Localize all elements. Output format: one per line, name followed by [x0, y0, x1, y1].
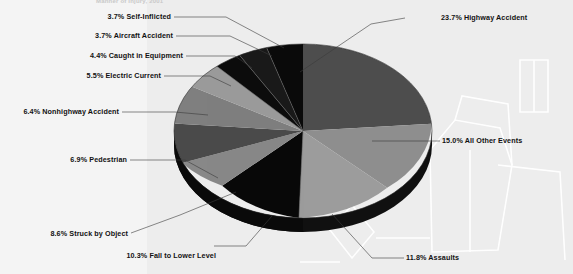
chart-title-faint: Manner of Injury, 2001	[96, 0, 163, 4]
callout-self-inflicted: 3.7% Self-Inflicted	[44, 12, 171, 21]
callout-assaults: 11.8% Assaults	[406, 253, 459, 262]
callout-caught-in-equipment: 4.4% Caught in Equipment	[43, 51, 183, 60]
callout-struck-by-object: 8.6% Struck by Object	[24, 229, 128, 238]
callout-all-other-events: 15.0% All Other Events	[442, 136, 522, 145]
callout-fall-to-lower-level: 10.3% Fall to Lower Level	[110, 251, 216, 260]
chart-canvas: Manner of Injury, 2001 23.7% Highway Acc…	[0, 0, 573, 274]
callout-pedestrian: 6.9% Pedestrian	[46, 155, 127, 164]
callout-electric-current: 5.5% Electric Current	[27, 71, 161, 80]
callout-highway-accident: 23.7% Highway Accident	[441, 13, 527, 22]
callout-aircraft-accident: 3.7% Aircraft Accident	[40, 31, 173, 40]
callout-nonhighway-accident: 6.4% Nonhighway Accident	[8, 107, 119, 116]
